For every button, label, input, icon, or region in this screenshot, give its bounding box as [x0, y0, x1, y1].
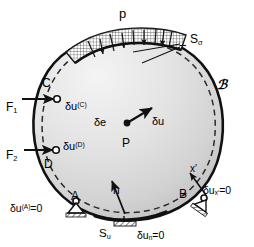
constraint-B-label: δux′=0	[203, 185, 231, 197]
pressure-label: p	[119, 7, 126, 20]
point-B-label: B	[179, 188, 187, 200]
dub-base: δu	[203, 184, 215, 196]
point-C-label: C	[42, 77, 51, 89]
deformable-body	[33, 35, 222, 220]
body-label: ℬ	[217, 78, 227, 91]
duc-sup: (C)	[77, 101, 86, 108]
s-sigma-base: S	[190, 32, 198, 46]
dub-tail: =0	[219, 184, 231, 196]
force-F2-label: F2	[6, 149, 17, 162]
dun-base: δu	[137, 229, 149, 241]
normal-vector-label: n	[113, 184, 120, 196]
f2-sub: 2	[13, 154, 17, 163]
point-D-marker	[53, 147, 60, 154]
dua-tail: =0	[30, 202, 42, 214]
dud-base: δu	[63, 140, 75, 152]
displacement-boundary-label: Su	[99, 228, 111, 241]
traction-boundary-label: Sσ	[190, 33, 203, 46]
virtual-strain-label: δe	[94, 117, 106, 128]
s-sigma-sub: σ	[198, 38, 203, 47]
point-A-label: A	[71, 190, 79, 202]
virtual-displacement-P-label: δu	[152, 116, 164, 127]
dua-base: δu	[10, 202, 22, 214]
virtual-displacement-D-label: δu(D)	[63, 141, 85, 152]
support-A-ground	[66, 213, 86, 217]
point-P-label: P	[122, 137, 130, 149]
constraint-A-label: δu(A)=0	[10, 203, 42, 214]
dud-sup: (D)	[75, 141, 84, 148]
f1-sub: 1	[13, 106, 17, 115]
dun-tail: =0	[152, 229, 164, 241]
point-C-marker	[54, 96, 61, 103]
duc-base: δu	[65, 100, 77, 112]
su-sub: u	[107, 233, 111, 241]
local-axis-label: x′	[190, 164, 197, 174]
figure-canvas: p Sσ ℬ C F1 δu(C) F2 D δu(D) δe δu P n x…	[0, 0, 254, 247]
body-boundary-undeformed	[33, 35, 222, 220]
su-base: S	[99, 227, 107, 239]
virtual-displacement-C-label: δu(C)	[65, 101, 87, 112]
point-D-label: D	[44, 158, 53, 170]
force-F1-label: F1	[6, 101, 17, 114]
constraint-normal-label: δun=0	[137, 230, 164, 242]
